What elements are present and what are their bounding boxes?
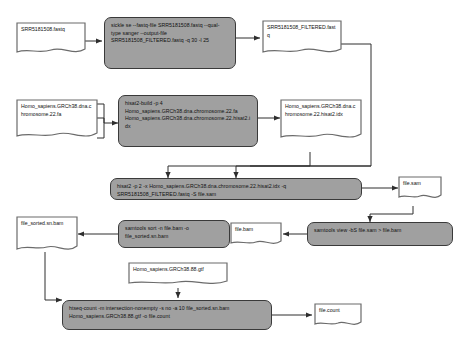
file-label: Homo_sapiens.GRCh38.dna.chromosome.22.fa: [21, 103, 93, 118]
edge-genome-to-build: [97, 118, 118, 123]
process-node-hisat2-build[interactable]: hisat2-build -p 4 Homo_sapiens.GRCh38.dn…: [118, 95, 258, 147]
file-node-file-count[interactable]: file.count: [314, 303, 362, 329]
file-node-file-bam[interactable]: file.bam: [230, 222, 282, 248]
file-label: file.count: [319, 307, 357, 315]
process-command-text: htseq-count -m intersection-nonempty -s …: [69, 305, 230, 319]
process-node-samtools-view[interactable]: samtools view -bS file.sam > file.bam: [307, 222, 453, 246]
file-label: Homo_sapiens.GRCh38.dna.chromosome.22.hi…: [285, 103, 357, 118]
file-label: file.sam: [403, 180, 437, 188]
process-command-text: sickle se --fastq-file SRR5181508.fastq …: [111, 22, 219, 43]
process-command-text: samtools sort -n file.bam -o file_sorted…: [125, 225, 189, 239]
process-node-samtools-sort[interactable]: samtools sort -n file.bam -o file_sorted…: [118, 220, 230, 248]
file-node-file-sorted-bam[interactable]: file_sorted.sn.bam: [16, 216, 78, 254]
file-label: SRR5181508_FILTERED.fastq: [267, 24, 337, 39]
file-node-annotation-gtf[interactable]: Homo_sapiens.GRCh38.88.gtf: [128, 262, 228, 288]
file-label: file_sorted.sn.bam: [21, 220, 73, 228]
flowchart-canvas: SRR5181508.fastq SRR5181508_FILTERED.fas…: [0, 0, 476, 346]
file-node-filtered-fastq[interactable]: SRR5181508_FILTERED.fastq: [262, 20, 342, 56]
file-label: Homo_sapiens.GRCh38.88.gtf: [133, 266, 223, 274]
process-node-hisat2-align[interactable]: hisat2 -p 2 -x Homo_sapiens.GRCh38.dna.c…: [110, 178, 362, 200]
process-command-text: hisat2 -p 2 -x Homo_sapiens.GRCh38.dna.c…: [117, 183, 286, 197]
file-node-index-idx[interactable]: Homo_sapiens.GRCh38.dna.chromosome.22.hi…: [280, 99, 362, 143]
process-node-sickle[interactable]: sickle se --fastq-file SRR5181508.fastq …: [104, 17, 236, 69]
file-label: SRR5181508.fastq: [21, 26, 81, 34]
edge-sam-to-view: [370, 206, 413, 222]
file-node-input-fastq[interactable]: SRR5181508.fastq: [16, 22, 86, 56]
file-node-genome-fa[interactable]: Homo_sapiens.GRCh38.dna.chromosome.22.fa: [16, 99, 98, 141]
process-node-htseq-count[interactable]: htseq-count -m intersection-nonempty -s …: [62, 300, 272, 330]
process-command-text: hisat2-build -p 4 Homo_sapiens.GRCh38.dn…: [125, 100, 250, 129]
edge-index-to-align: [250, 152, 310, 166]
file-label: file.bam: [235, 226, 277, 234]
file-node-file-sam[interactable]: file.sam: [398, 176, 442, 202]
edge-sorted-to-htseq: [45, 252, 62, 300]
process-command-text: samtools view -bS file.sam > file.bam: [314, 227, 401, 233]
